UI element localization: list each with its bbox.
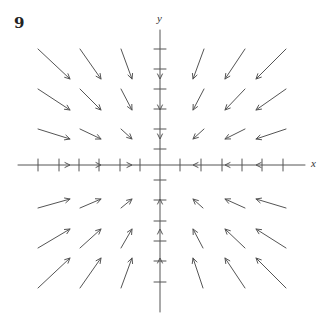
field-arrow bbox=[38, 199, 70, 208]
field-arrow bbox=[256, 229, 286, 248]
field-arrow bbox=[225, 229, 245, 248]
field-arrow bbox=[256, 258, 286, 288]
field-arrow bbox=[225, 129, 245, 139]
field-arrow bbox=[80, 89, 101, 110]
vector-field-plot bbox=[0, 0, 330, 326]
field-arrow bbox=[225, 49, 245, 79]
field-arrow bbox=[121, 229, 132, 248]
field-arrow bbox=[38, 89, 70, 110]
field-arrow bbox=[225, 199, 245, 208]
field-arrow bbox=[38, 258, 70, 288]
field-arrow bbox=[193, 49, 204, 79]
field-arrow bbox=[256, 199, 286, 208]
field-arrow bbox=[193, 89, 204, 110]
field-arrow bbox=[256, 129, 286, 139]
field-arrow bbox=[38, 49, 70, 79]
field-arrowhead-icon bbox=[64, 105, 70, 110]
field-arrow bbox=[121, 258, 132, 288]
field-arrow bbox=[193, 229, 203, 248]
field-arrowhead-icon bbox=[256, 229, 262, 234]
field-arrow bbox=[80, 229, 101, 248]
field-arrowhead-icon bbox=[225, 73, 230, 79]
field-arrow bbox=[193, 258, 203, 288]
field-arrow bbox=[256, 89, 286, 110]
field-arrow bbox=[80, 129, 101, 139]
field-arrow bbox=[80, 199, 101, 208]
vector-field-figure: 9 x y bbox=[0, 0, 330, 326]
field-arrow bbox=[121, 89, 132, 110]
field-arrowhead-icon bbox=[225, 258, 230, 264]
field-arrow bbox=[80, 49, 101, 79]
field-arrow bbox=[225, 258, 245, 288]
field-arrow bbox=[80, 258, 101, 288]
field-arrow bbox=[256, 49, 286, 79]
field-arrow bbox=[38, 229, 70, 248]
field-arrow bbox=[38, 129, 70, 139]
field-arrow bbox=[121, 49, 132, 79]
field-arrow bbox=[225, 89, 245, 110]
